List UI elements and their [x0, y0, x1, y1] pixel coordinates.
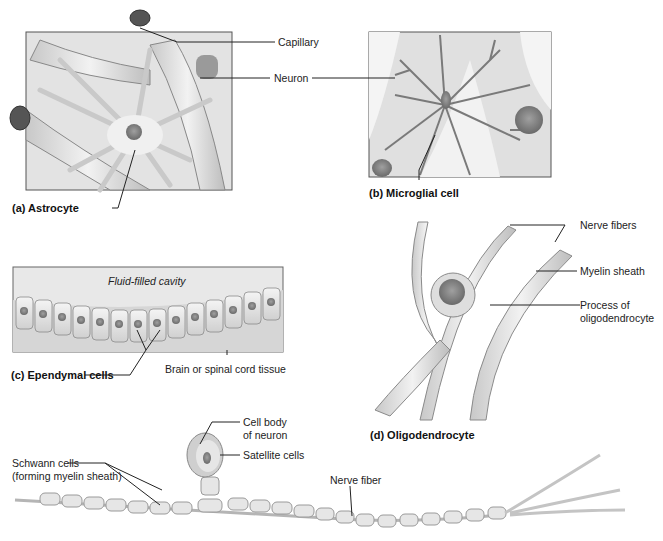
label-neuron: Neuron — [274, 72, 308, 84]
label-brain-tissue: Brain or spinal cord tissue — [165, 363, 286, 375]
astrocyte-illustration — [10, 10, 232, 190]
caption-oligodendrocyte: (d) Oligodendrocyte — [370, 429, 475, 441]
label-cell-body-line2: of neuron — [243, 429, 287, 441]
label-process-line1: Process of — [580, 299, 630, 311]
label-process-line2: oligodendrocyte — [580, 312, 654, 324]
label-nerve-fiber: Nerve fiber — [330, 474, 381, 486]
caption-astrocyte: (a) Astrocyte — [12, 202, 79, 214]
label-fluid-cavity: Fluid-filled cavity — [108, 275, 186, 287]
label-schwann-line2: (forming myelin sheath) — [12, 470, 122, 482]
label-myelin-sheath: Myelin sheath — [580, 265, 645, 277]
microglial-illustration — [369, 32, 551, 177]
label-capillary: Capillary — [278, 36, 319, 48]
oligodendrocyte-illustration — [375, 222, 572, 420]
label-satellite-cells: Satellite cells — [243, 449, 304, 461]
label-nerve-fibers: Nerve fibers — [580, 219, 637, 231]
label-schwann-line1: Schwann cells — [12, 457, 79, 469]
label-cell-body-line1: Cell body — [243, 416, 287, 428]
diagram-artwork — [0, 0, 663, 541]
caption-microglial: (b) Microglial cell — [369, 187, 459, 199]
caption-ependymal: (c) Ependymal cells — [11, 369, 114, 381]
